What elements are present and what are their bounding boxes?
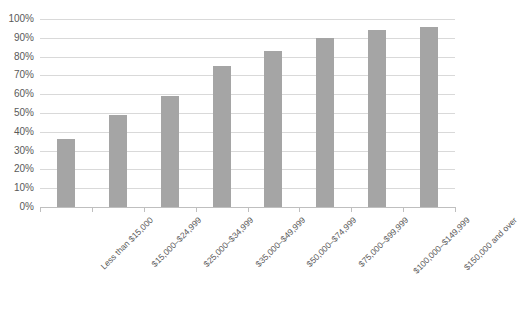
plot-area [40, 19, 455, 207]
x-tick-label: $50,000–$74,999 [305, 215, 359, 269]
y-tick-label: 90% [14, 33, 34, 43]
x-tick-label: Less than $15,000 [98, 215, 155, 272]
x-tick [40, 207, 41, 212]
gridline [40, 75, 455, 76]
gridline [40, 169, 455, 170]
bar[interactable] [213, 66, 231, 207]
x-tick [299, 207, 300, 212]
x-tick [196, 207, 197, 212]
y-tick-label: 50% [14, 108, 34, 118]
gridline [40, 94, 455, 95]
bar[interactable] [316, 38, 334, 207]
gridline [40, 57, 455, 58]
y-tick-label: 0% [20, 202, 34, 212]
bar[interactable] [264, 51, 282, 207]
bar[interactable] [57, 139, 75, 207]
gridline [40, 113, 455, 114]
x-tick-label: $150,000 and over [462, 215, 519, 272]
y-tick-label: 20% [14, 164, 34, 174]
bar[interactable] [161, 96, 179, 207]
x-tick [351, 207, 352, 212]
gridline [40, 132, 455, 133]
y-tick-label: 10% [14, 183, 34, 193]
gridline [40, 188, 455, 189]
gridline [40, 19, 455, 20]
bar[interactable] [109, 115, 127, 207]
x-tick [403, 207, 404, 212]
x-tick-label: $25,000–$34,999 [201, 215, 255, 269]
gridline [40, 38, 455, 39]
bar[interactable] [368, 30, 386, 207]
x-tick [144, 207, 145, 212]
x-tick [248, 207, 249, 212]
y-axis: 100%90%80%70%60%50%40%30%20%10%0% [0, 0, 36, 310]
y-tick-label: 70% [14, 70, 34, 80]
y-tick-label: 40% [14, 127, 34, 137]
y-tick-label: 100% [8, 14, 34, 24]
x-tick [92, 207, 93, 212]
bar[interactable] [420, 27, 438, 207]
gridline [40, 151, 455, 152]
y-tick-label: 30% [14, 146, 34, 156]
x-tick [455, 207, 456, 212]
x-tick-label: $15,000–$24,999 [149, 215, 203, 269]
y-tick-label: 80% [14, 52, 34, 62]
x-tick-label: $35,000–$49,999 [253, 215, 307, 269]
y-tick-label: 60% [14, 89, 34, 99]
x-tick-label: $75,000–$99,999 [357, 215, 411, 269]
